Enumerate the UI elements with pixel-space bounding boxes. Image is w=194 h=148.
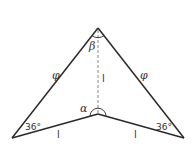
right-side-label: φ [140, 69, 148, 82]
altitude-label: l [102, 73, 105, 84]
dart-diagram: φ φ β l α 36° 36° l l [0, 0, 194, 148]
alpha-label: α [80, 102, 88, 115]
left-side-label: φ [52, 69, 60, 82]
right-base-label: l [134, 129, 137, 140]
right-angle-label: 36° [156, 122, 172, 132]
left-base-label: l [57, 129, 60, 140]
left-angle-label: 36° [25, 122, 41, 132]
beta-label: β [88, 40, 95, 53]
